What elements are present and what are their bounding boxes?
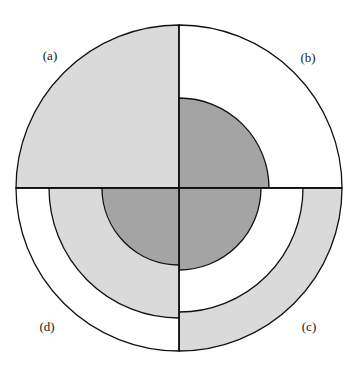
quadrant-label-a: (a) — [43, 48, 57, 63]
quadrant-a-ring-1 — [16, 25, 179, 188]
quadrant-label-d: (d) — [39, 319, 54, 334]
quadrant-label-c: (c) — [302, 319, 316, 334]
quadrant-circle-diagram: (a) (b) (c) (d) — [0, 0, 359, 368]
quadrant-label-b: (b) — [300, 50, 315, 65]
